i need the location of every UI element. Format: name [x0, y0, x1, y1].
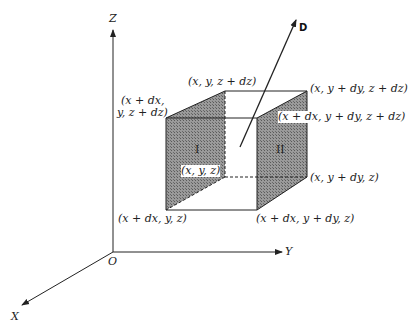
- vertex-x-ydy-z: (x, y + dy, z): [310, 172, 379, 184]
- face-I-label: I: [194, 144, 200, 156]
- vertex-x-ydy-zdz: (x, y + dy, z + dz): [310, 83, 408, 95]
- vertex-xdx-ydy-z: (x + dx, y + dy, z): [256, 213, 354, 225]
- vertex-x-y-z: (x, y, z): [181, 165, 220, 177]
- vertex-xdx-ydy-zdz: (x + dx, y + dy, z + dz): [278, 111, 405, 123]
- z-axis-label: Z: [109, 12, 117, 25]
- vertex-xdx-y-zdz-line2: y, z + dz): [117, 107, 168, 119]
- origin-label: O: [108, 255, 117, 268]
- y-axis-label: Y: [285, 245, 292, 258]
- x-axis: [22, 252, 113, 305]
- vertex-x-y-zdz: (x, y, z + dz): [188, 76, 256, 88]
- vector-d-label: D: [299, 22, 307, 33]
- vertex-xdx-y-z: (x + dx, y, z): [118, 213, 187, 225]
- axes: [22, 30, 282, 305]
- x-axis-label: X: [11, 310, 19, 323]
- face-II-label: II: [275, 144, 286, 156]
